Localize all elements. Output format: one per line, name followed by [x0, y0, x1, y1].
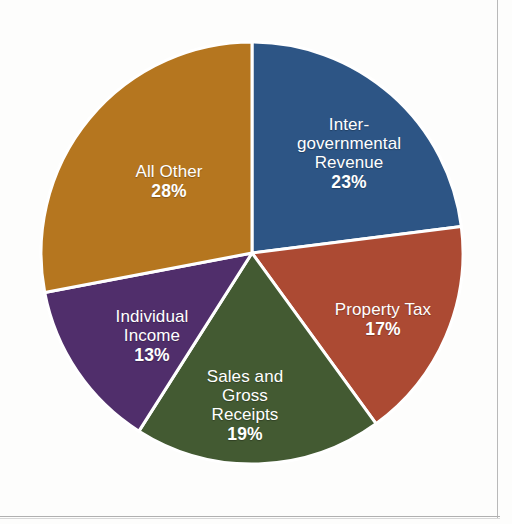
page-canvas: Inter- governmental Revenue 23% Property… — [0, 0, 512, 524]
pie-slice-all-other[interactable] — [41, 42, 252, 293]
pie-chart-svg — [0, 0, 500, 516]
page-border-bottom — [0, 516, 500, 517]
page-border-bottom-shadow — [0, 518, 500, 519]
pie-slice-intergovernmental-revenue[interactable] — [252, 42, 461, 253]
pie-chart: Inter- governmental Revenue 23% Property… — [0, 0, 500, 516]
pie-slice-group — [41, 42, 463, 464]
